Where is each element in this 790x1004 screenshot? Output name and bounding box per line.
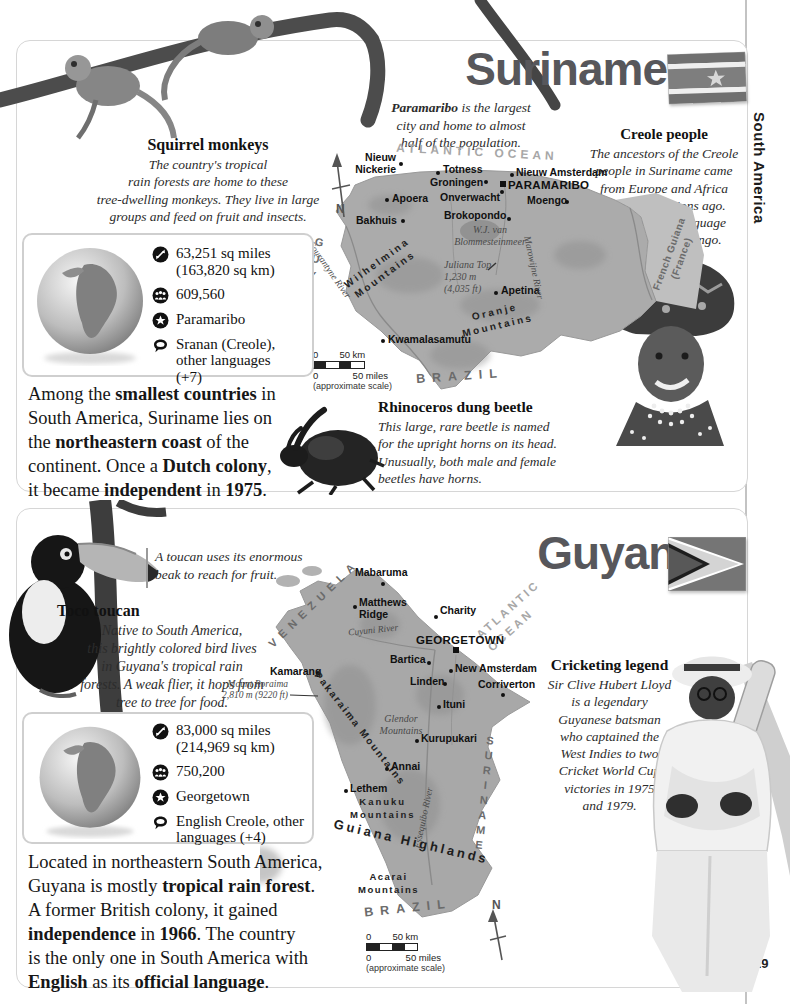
speech-bubble-icon (152, 337, 169, 354)
capital-label-georgetown: GEORGETOWN (416, 634, 504, 647)
stats-list: 63,251 sq miles (163,820 sq km) 609,560 … (152, 245, 308, 386)
kanuku-mountains-label: Kanuku Mountains (350, 796, 416, 822)
compass-n-label: N (336, 203, 345, 216)
suriname-title: Suriname (452, 42, 667, 96)
population-people-icon (152, 287, 169, 304)
city-marker (565, 200, 569, 204)
city-marker (507, 217, 511, 221)
city-marker (434, 615, 438, 619)
stat-population: 609,560 (152, 286, 308, 304)
city-label-groningen: Groningen (430, 177, 483, 189)
scale-miles-label: 0 50 miles (366, 952, 445, 963)
city-label-kurupukari: Kurupukari (421, 733, 477, 745)
capital-star-icon (152, 312, 169, 329)
city-label-bakhuis: Bakhuis (356, 215, 397, 227)
scale-note: (approximate scale) (366, 963, 445, 973)
city-label-lethem: Lethem (350, 783, 387, 795)
city-label-ituni: Ituni (443, 699, 465, 711)
city-marker (385, 767, 389, 771)
scale-miles-label: 0 50 miles (313, 370, 392, 381)
city-label-kwamalasamutu: Kwamalasamutu (388, 334, 471, 346)
speech-bubble-icon (152, 814, 169, 831)
city-marker (494, 291, 498, 295)
guyana-summary: Located in northeastern South America, G… (28, 850, 348, 994)
globe-south-america (32, 722, 148, 840)
city-marker (500, 190, 504, 194)
stat-area-value: 63,251 sq miles (163,820 sq km) (176, 245, 275, 279)
city-marker (436, 171, 440, 175)
suriname-map: ATLANTIC OCEAN N Nieuw Nickerie Totness … (300, 135, 720, 425)
stat-area: 83,000 sq miles (214,969 sq km) (152, 722, 308, 756)
city-label-totness: Totness (443, 164, 482, 176)
city-label-brokopondo: Brokopondo (444, 210, 506, 222)
area-arrows-icon (152, 246, 169, 263)
map-scale: 0 50 km 0 50 miles (approximate scale) (366, 931, 445, 973)
stat-population-value: 750,200 (176, 763, 225, 780)
stat-languages-value: Sranan (Creole), other languages (+7) (176, 336, 275, 386)
suriname-stats-box: 63,251 sq miles (163,820 sq km) 609,560 … (22, 233, 314, 377)
cricketer-photo (612, 636, 790, 992)
city-label-annai: Annai (391, 761, 420, 773)
acarai-mountains-label: Acarai Mountains (358, 871, 419, 897)
guyana-stats-box: 83,000 sq miles (214,969 sq km) 750,200 … (22, 712, 314, 844)
dung-beetle-text: This large, rare beetle is named for the… (378, 418, 640, 487)
stat-languages: Sranan (Creole), other languages (+7) (152, 336, 308, 386)
city-label-charity: Charity (440, 605, 476, 617)
city-marker (501, 693, 505, 697)
city-label-linden: Linden (410, 676, 444, 688)
city-label-nieuw-nickerie: Nieuw Nickerie (340, 152, 396, 176)
city-label-nieuw-amsterdam: Nieuw Amsterdam (516, 167, 607, 179)
stat-area: 63,251 sq miles (163,820 sq km) (152, 245, 308, 279)
area-arrows-icon (152, 723, 169, 740)
scale-bar (313, 361, 365, 369)
city-marker (385, 198, 389, 202)
city-marker (401, 219, 405, 223)
scale-bar (366, 943, 418, 951)
stats-list: 83,000 sq miles (214,969 sq km) 750,200 … (152, 722, 308, 846)
caption-rule (146, 548, 148, 588)
capital-marker (500, 181, 506, 187)
capital-star-icon (152, 789, 169, 806)
stat-population: 750,200 (152, 763, 308, 781)
dung-beetle-heading: Rhinoceros dung beetle (378, 398, 640, 416)
stat-area-value: 83,000 sq miles (214,969 sq km) (176, 722, 275, 756)
suriname-flag (667, 52, 747, 105)
stat-population-value: 609,560 (176, 286, 225, 303)
mount-roraima-label: Mount Roraima 2,810 m (9220 ft) (222, 679, 288, 702)
guyana-flag (668, 537, 746, 591)
city-label-onverwacht: Onverwacht (440, 192, 500, 204)
city-marker (449, 669, 453, 673)
city-marker (510, 173, 514, 177)
stat-capital-value: Paramaribo (176, 311, 245, 328)
city-label-bartica: Bartica (390, 654, 426, 666)
city-label-moengo: Moengo (527, 195, 567, 207)
stat-languages: English Creole, other languages (+4) (152, 813, 308, 847)
capital-label-paramaribo: PARAMARIBO (508, 179, 589, 192)
city-marker (344, 789, 348, 793)
stat-languages-value: English Creole, other languages (+4) (176, 813, 304, 847)
city-marker (427, 661, 431, 665)
city-marker (399, 162, 403, 166)
city-marker (381, 582, 385, 586)
dung-beetle-feature: Rhinoceros dung beetle This large, rare … (378, 398, 640, 487)
city-marker (353, 605, 357, 609)
city-marker (381, 339, 385, 343)
city-marker (484, 180, 488, 184)
city-marker (437, 705, 441, 709)
dung-beetle-photo (268, 400, 388, 495)
atlas-page: South America 29 Squirrel monkeys The co… (0, 0, 790, 1004)
stat-capital: Georgetown (152, 788, 308, 806)
juliana-top-label: Juliana Top 1,230 m (4,035 ft) (444, 259, 491, 295)
compass-n-label: N (492, 899, 501, 912)
scale-km-label: 0 50 km (313, 349, 392, 360)
city-marker (443, 682, 447, 686)
city-label-matthews-ridge: Matthews Ridge (359, 597, 407, 621)
scale-km-label: 0 50 km (366, 931, 445, 942)
north-compass-icon (488, 909, 506, 960)
stat-capital-value: Georgetown (176, 788, 250, 805)
city-marker (415, 739, 419, 743)
city-label-mabaruma: Mabaruma (355, 567, 408, 579)
population-people-icon (152, 764, 169, 781)
capital-marker (453, 647, 459, 653)
edge-tab-label: South America (751, 112, 768, 224)
